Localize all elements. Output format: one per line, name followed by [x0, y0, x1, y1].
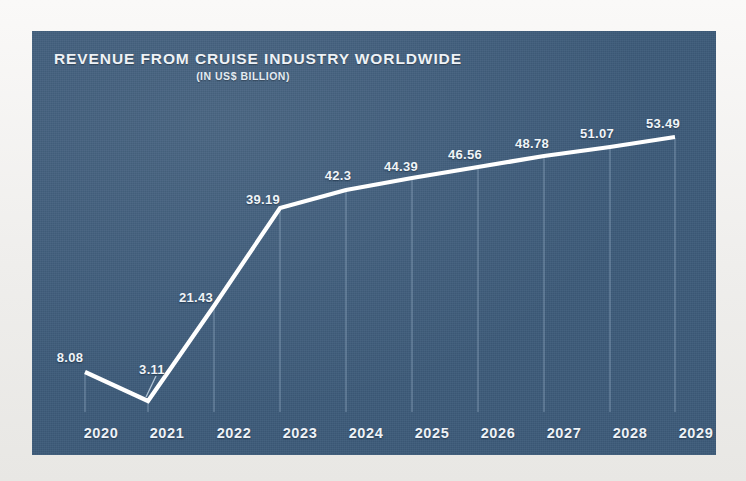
data-point-label: 21.43 [179, 290, 213, 305]
data-point-label: 8.08 [57, 350, 84, 365]
data-point-label: 53.49 [646, 116, 680, 131]
x-axis-tick-2026: 2026 [481, 425, 516, 441]
data-point-label: 46.56 [448, 147, 482, 162]
x-axis-tick-2024: 2024 [349, 425, 384, 441]
data-point-label: 48.78 [515, 136, 549, 151]
x-axis-tick-2027: 2027 [547, 425, 582, 441]
chart-figure: REVENUE FROM CRUISE INDUSTRY WORLDWIDE (… [0, 0, 746, 481]
x-axis-tick-2029: 2029 [679, 425, 714, 441]
x-axis-tick-2022: 2022 [217, 425, 252, 441]
x-axis-tick-2028: 2028 [613, 425, 648, 441]
dropline-group [85, 139, 675, 412]
chart-title: REVENUE FROM CRUISE INDUSTRY WORLDWIDE [32, 50, 716, 68]
data-point-label: 39.19 [246, 192, 280, 207]
data-point-label: 42.3 [325, 168, 352, 183]
title-block: REVENUE FROM CRUISE INDUSTRY WORLDWIDE (… [32, 50, 716, 82]
x-axis-tick-2021: 2021 [150, 425, 185, 441]
chart-panel: REVENUE FROM CRUISE INDUSTRY WORLDWIDE (… [32, 31, 716, 455]
chart-subtitle: (IN US$ BILLION) [32, 70, 432, 82]
x-axis-tick-2020: 2020 [84, 425, 119, 441]
data-point-label: 44.39 [384, 159, 418, 174]
line-plot [32, 31, 716, 455]
data-point-label: 3.11 [139, 362, 165, 377]
revenue-line [85, 137, 675, 401]
data-point-label: 51.07 [580, 126, 614, 141]
x-axis-tick-2023: 2023 [283, 425, 318, 441]
x-axis-tick-2025: 2025 [415, 425, 450, 441]
